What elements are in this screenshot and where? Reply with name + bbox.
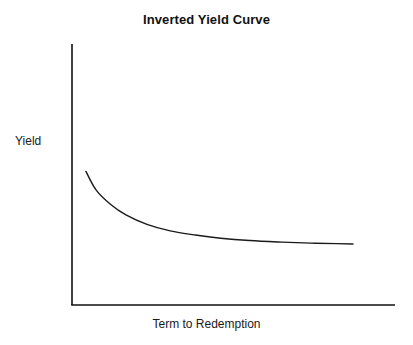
plot-area — [0, 0, 413, 345]
chart-figure: Inverted Yield Curve Yield Term to Redem… — [0, 0, 413, 345]
yield-curve-line — [86, 171, 353, 244]
